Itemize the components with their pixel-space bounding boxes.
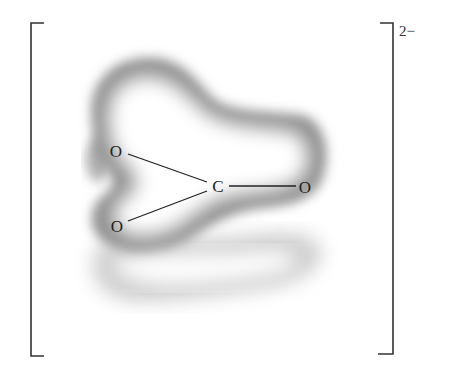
ion-charge: 2−	[399, 23, 415, 39]
right-bracket	[378, 23, 393, 354]
carbonate-diagram: O C O O 2−	[0, 0, 459, 370]
atom-o-top: O	[110, 142, 122, 161]
left-bracket	[31, 23, 44, 356]
atom-c-center: C	[212, 177, 223, 196]
atom-o-right: O	[299, 178, 311, 197]
electron-cloud-main	[92, 58, 327, 251]
atom-o-bottom: O	[111, 217, 123, 236]
